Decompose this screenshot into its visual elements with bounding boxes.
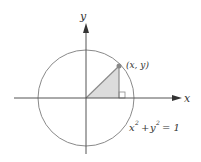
point-label: (x, y) bbox=[126, 60, 149, 70]
svg-text:2: 2 bbox=[155, 119, 160, 126]
y-axis-arrow-icon bbox=[83, 23, 89, 33]
svg-text:+: + bbox=[141, 122, 149, 133]
x-axis-label: x bbox=[184, 92, 191, 105]
svg-text:y: y bbox=[149, 122, 156, 133]
unit-circle-diagram: y x (x, y) x 2 + y 2 = 1 bbox=[0, 0, 201, 162]
svg-text:2: 2 bbox=[134, 119, 139, 126]
y-axis-label: y bbox=[79, 10, 87, 23]
circle-equation: x 2 + y 2 = 1 bbox=[129, 119, 180, 133]
x-axis-arrow-icon bbox=[172, 95, 182, 101]
svg-text:= 1: = 1 bbox=[162, 122, 180, 133]
point-marker bbox=[117, 64, 122, 69]
right-angle-marker bbox=[119, 92, 125, 98]
